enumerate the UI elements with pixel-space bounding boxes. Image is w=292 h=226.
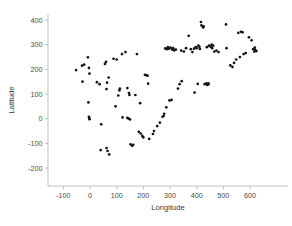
datapoint	[241, 31, 244, 34]
datapoint	[124, 51, 127, 54]
datapoint	[112, 57, 115, 60]
datapoint	[99, 149, 102, 152]
datapoint	[87, 56, 90, 59]
datapoint	[250, 39, 253, 42]
datapoint	[239, 56, 242, 59]
datapoint	[88, 67, 91, 70]
datapoint-group	[75, 21, 258, 156]
datapoint	[136, 53, 139, 56]
datapoint	[196, 83, 199, 86]
y-tick-label: 300	[31, 40, 43, 49]
datapoint	[178, 83, 181, 86]
datapoint	[126, 87, 129, 90]
datapoint	[96, 81, 99, 84]
datapoint	[105, 61, 108, 64]
datapoint	[88, 72, 91, 75]
datapoint	[119, 87, 122, 90]
datapoint	[217, 51, 220, 54]
datapoint	[212, 44, 215, 47]
datapoint	[75, 69, 78, 72]
datapoint	[107, 76, 110, 79]
datapoint	[147, 82, 150, 85]
datapoint	[199, 48, 202, 51]
datapoint	[170, 99, 173, 102]
datapoint	[175, 48, 178, 51]
datapoint	[235, 58, 238, 61]
datapoint	[211, 47, 214, 50]
datapoint	[146, 74, 149, 77]
datapoint	[132, 144, 135, 147]
x-tick-label: 200	[137, 191, 149, 200]
y-tick-label: -200	[28, 164, 42, 173]
x-tick-label: 500	[217, 191, 229, 200]
scatter-plot-figure: -1000100200300400500600-200-100010020030…	[0, 0, 292, 226]
datapoint	[191, 51, 194, 54]
datapoint	[244, 52, 247, 55]
y-tick-label: 100	[31, 90, 43, 99]
datapoint	[134, 94, 137, 97]
datapoint	[105, 147, 108, 150]
datapoint	[156, 125, 159, 128]
x-tick-label: 100	[111, 191, 123, 200]
datapoint	[108, 153, 111, 156]
y-axis-title: Latitude	[7, 86, 16, 113]
datapoint	[106, 150, 109, 153]
datapoint	[225, 47, 228, 50]
x-tick-label: 300	[164, 191, 176, 200]
datapoint	[202, 25, 205, 28]
datapoint	[177, 87, 180, 90]
datapoint	[139, 102, 142, 105]
datapoint	[114, 105, 117, 108]
datapoint	[183, 50, 186, 53]
datapoint	[200, 21, 203, 24]
datapoint	[83, 63, 86, 66]
datapoint	[207, 83, 210, 86]
datapoint	[231, 66, 234, 69]
datapoint	[81, 80, 84, 83]
datapoint	[139, 132, 142, 135]
datapoint	[159, 121, 162, 124]
datapoint	[128, 94, 131, 97]
datapoint	[88, 117, 91, 120]
datapoint	[100, 123, 103, 126]
datapoint	[153, 130, 156, 133]
x-tick-label: -100	[56, 191, 70, 200]
datapoint	[187, 34, 190, 37]
datapoint	[148, 138, 151, 141]
datapoint	[121, 53, 124, 56]
y-tick-label: 200	[31, 65, 43, 74]
y-tick-label: 400	[31, 16, 43, 25]
datapoint	[87, 101, 90, 104]
x-axis-title: Longitude	[151, 203, 184, 212]
datapoint	[193, 91, 196, 94]
datapoint	[255, 50, 258, 53]
datapoint	[180, 49, 183, 52]
datapoint	[189, 48, 192, 51]
datapoint	[105, 88, 108, 91]
datapoint	[233, 62, 236, 65]
datapoint	[106, 81, 109, 84]
datapoint	[195, 47, 198, 50]
datapoint	[180, 80, 183, 83]
datapoint	[163, 112, 166, 115]
plot-canvas: -1000100200300400500600-200-100010020030…	[0, 0, 292, 226]
datapoint	[237, 31, 240, 34]
datapoint	[121, 116, 124, 119]
datapoint	[117, 94, 120, 97]
datapoint	[253, 46, 256, 49]
datapoint	[248, 36, 251, 39]
datapoint	[129, 118, 132, 121]
y-tick-label: -100	[28, 139, 42, 148]
x-tick-label: 0	[88, 191, 92, 200]
datapoint	[185, 47, 188, 50]
x-tick-label: 600	[244, 191, 256, 200]
datapoint	[142, 136, 145, 139]
datapoint	[225, 23, 228, 26]
datapoint	[98, 83, 101, 86]
datapoint	[152, 133, 155, 136]
datapoint	[165, 106, 168, 109]
datapoint	[115, 58, 118, 61]
x-tick-label: 400	[191, 191, 203, 200]
y-tick-label: 0	[39, 114, 43, 123]
